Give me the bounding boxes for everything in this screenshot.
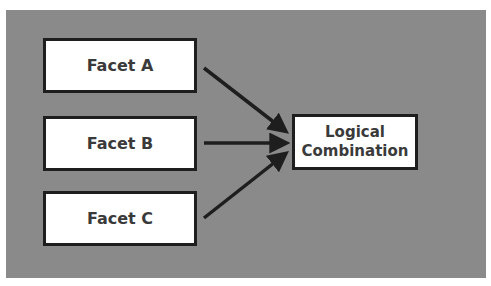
logical-combination-box: Logical Combination xyxy=(292,114,418,170)
facet-c-label: Facet C xyxy=(87,209,153,229)
facet-b-box: Facet B xyxy=(43,116,197,171)
facet-b-label: Facet B xyxy=(87,134,154,154)
facet-a-label: Facet A xyxy=(87,56,154,76)
facet-a-box: Facet A xyxy=(43,38,197,93)
combo-label-line1: Logical xyxy=(325,123,385,142)
combo-label-line2: Combination xyxy=(302,142,409,161)
facet-c-box: Facet C xyxy=(43,191,197,246)
